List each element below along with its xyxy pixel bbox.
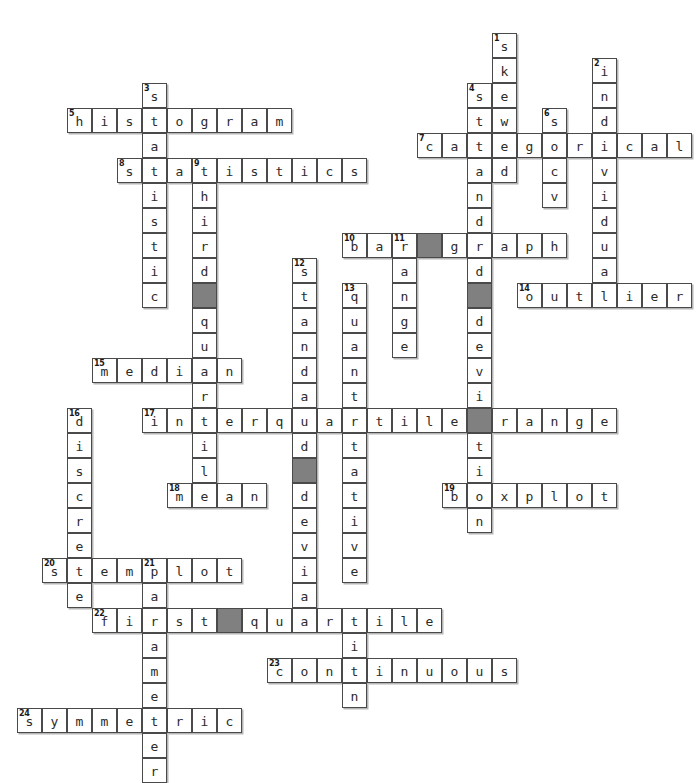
crossword-cell[interactable]: e: [492, 83, 517, 108]
crossword-cell[interactable]: i: [142, 258, 167, 283]
crossword-cell[interactable]: g: [517, 133, 542, 158]
crossword-cell[interactable]: a: [467, 158, 492, 183]
crossword-cell[interactable]: w: [492, 108, 517, 133]
crossword-cell[interactable]: t: [342, 608, 367, 633]
crossword-cell[interactable]: c: [142, 283, 167, 308]
crossword-cell[interactable]: t: [567, 283, 592, 308]
crossword-cell[interactable]: x: [492, 483, 517, 508]
crossword-cell[interactable]: d: [292, 483, 317, 508]
crossword-cell[interactable]: i: [592, 183, 617, 208]
crossword-cell[interactable]: e: [67, 533, 92, 558]
crossword-cell[interactable]: i: [67, 433, 92, 458]
crossword-cell[interactable]: i: [142, 183, 167, 208]
crossword-cell[interactable]: s: [167, 608, 192, 633]
crossword-cell[interactable]: 12s: [292, 258, 317, 283]
crossword-cell[interactable]: u: [467, 658, 492, 683]
crossword-cell[interactable]: l: [192, 458, 217, 483]
crossword-cell[interactable]: t: [267, 158, 292, 183]
crossword-cell[interactable]: r: [192, 233, 217, 258]
crossword-cell[interactable]: c: [617, 133, 642, 158]
crossword-cell[interactable]: u: [417, 658, 442, 683]
crossword-cell[interactable]: u: [592, 233, 617, 258]
crossword-cell[interactable]: t: [142, 708, 167, 733]
crossword-cell[interactable]: t: [142, 158, 167, 183]
crossword-cell[interactable]: i: [617, 283, 642, 308]
crossword-cell[interactable]: d: [292, 433, 317, 458]
crossword-cell[interactable]: c: [217, 708, 242, 733]
crossword-cell[interactable]: d: [592, 208, 617, 233]
crossword-cell[interactable]: 9t: [192, 158, 217, 183]
crossword-cell[interactable]: 18m: [167, 483, 192, 508]
crossword-cell[interactable]: g: [442, 233, 467, 258]
crossword-cell[interactable]: r: [167, 708, 192, 733]
crossword-cell[interactable]: t: [342, 483, 367, 508]
crossword-cell[interactable]: m: [67, 708, 92, 733]
crossword-cell[interactable]: o: [442, 658, 467, 683]
crossword-cell[interactable]: 7c: [417, 133, 442, 158]
crossword-cell[interactable]: t: [217, 558, 242, 583]
crossword-cell[interactable]: a: [142, 133, 167, 158]
crossword-cell[interactable]: l: [542, 483, 567, 508]
crossword-cell[interactable]: t: [467, 133, 492, 158]
crossword-cell[interactable]: n: [317, 658, 342, 683]
crossword-cell[interactable]: i: [392, 408, 417, 433]
crossword-cell[interactable]: e: [92, 558, 117, 583]
crossword-cell[interactable]: o: [567, 483, 592, 508]
crossword-cell[interactable]: 15m: [92, 358, 117, 383]
crossword-cell[interactable]: a: [392, 258, 417, 283]
crossword-cell[interactable]: v: [342, 533, 367, 558]
crossword-cell[interactable]: i: [467, 458, 492, 483]
crossword-cell[interactable]: s: [67, 458, 92, 483]
crossword-cell[interactable]: a: [442, 133, 467, 158]
crossword-cell[interactable]: e: [142, 733, 167, 758]
crossword-cell[interactable]: g: [567, 408, 592, 433]
crossword-cell[interactable]: v: [542, 183, 567, 208]
crossword-cell[interactable]: t: [142, 108, 167, 133]
crossword-cell[interactable]: r: [667, 283, 692, 308]
crossword-cell[interactable]: n: [592, 83, 617, 108]
crossword-cell[interactable]: 21p: [142, 558, 167, 583]
crossword-cell[interactable]: e: [142, 683, 167, 708]
crossword-cell[interactable]: d: [592, 108, 617, 133]
crossword-cell[interactable]: h: [192, 183, 217, 208]
crossword-cell[interactable]: t: [192, 408, 217, 433]
crossword-cell[interactable]: p: [517, 233, 542, 258]
crossword-cell[interactable]: 2i: [592, 58, 617, 83]
crossword-cell[interactable]: e: [192, 483, 217, 508]
crossword-cell[interactable]: a: [317, 408, 342, 433]
crossword-cell[interactable]: a: [367, 233, 392, 258]
crossword-cell[interactable]: 20s: [42, 558, 67, 583]
crossword-cell[interactable]: y: [42, 708, 67, 733]
crossword-cell[interactable]: 4s: [467, 83, 492, 108]
crossword-cell[interactable]: n: [467, 508, 492, 533]
crossword-cell[interactable]: s: [342, 158, 367, 183]
crossword-cell[interactable]: e: [642, 283, 667, 308]
crossword-cell[interactable]: a: [242, 108, 267, 133]
crossword-cell[interactable]: a: [592, 258, 617, 283]
crossword-cell[interactable]: a: [142, 583, 167, 608]
crossword-cell[interactable]: n: [342, 358, 367, 383]
crossword-cell[interactable]: g: [392, 308, 417, 333]
crossword-cell[interactable]: a: [292, 583, 317, 608]
crossword-cell[interactable]: i: [217, 158, 242, 183]
crossword-cell[interactable]: r: [342, 408, 367, 433]
crossword-cell[interactable]: s: [242, 158, 267, 183]
crossword-cell[interactable]: 10b: [342, 233, 367, 258]
crossword-cell[interactable]: m: [267, 108, 292, 133]
crossword-cell[interactable]: d: [142, 358, 167, 383]
crossword-cell[interactable]: c: [542, 158, 567, 183]
crossword-cell[interactable]: i: [292, 158, 317, 183]
crossword-cell[interactable]: r: [142, 608, 167, 633]
crossword-cell[interactable]: q: [242, 608, 267, 633]
crossword-cell[interactable]: u: [342, 308, 367, 333]
crossword-cell[interactable]: r: [217, 108, 242, 133]
crossword-cell[interactable]: 23c: [267, 658, 292, 683]
crossword-cell[interactable]: a: [517, 408, 542, 433]
crossword-cell[interactable]: r: [142, 758, 167, 783]
crossword-cell[interactable]: 11r: [392, 233, 417, 258]
crossword-cell[interactable]: v: [592, 158, 617, 183]
crossword-cell[interactable]: n: [167, 408, 192, 433]
crossword-cell[interactable]: m: [142, 658, 167, 683]
crossword-cell[interactable]: d: [467, 308, 492, 333]
crossword-cell[interactable]: e: [217, 408, 242, 433]
